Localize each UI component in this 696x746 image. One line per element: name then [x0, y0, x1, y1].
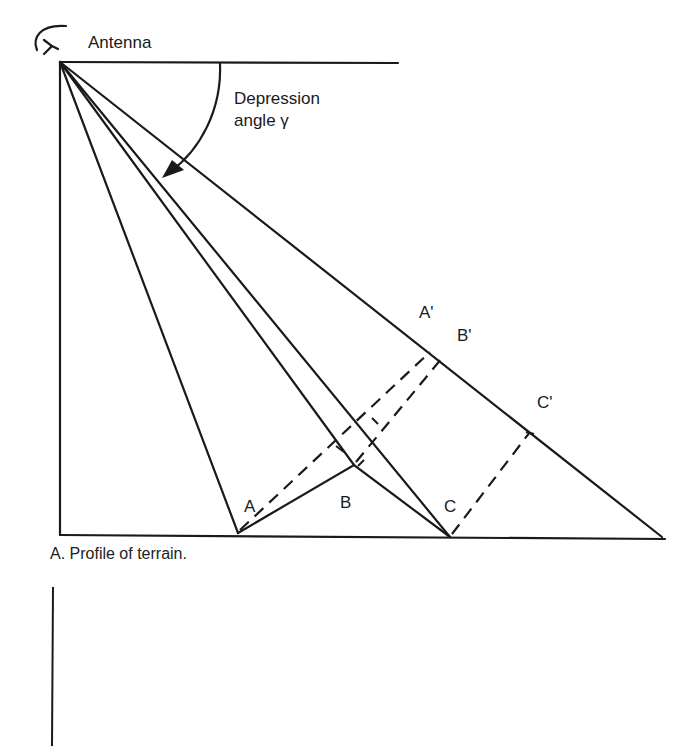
depression-label-line1: Depression: [234, 89, 320, 108]
tick-mark: [372, 418, 378, 424]
projection-C-to-C-prime: [452, 432, 530, 534]
antenna-icon-y: [44, 40, 58, 54]
projection-A-to-A-prime: [240, 352, 430, 530]
point-label-C: C: [444, 497, 456, 516]
projection-B-to-B-prime: [356, 358, 442, 462]
point-label-B-prime: B': [457, 326, 472, 345]
tick-mark: [358, 460, 364, 466]
horizontal-reference-line: [60, 62, 398, 63]
point-label-C-prime: C': [537, 393, 553, 412]
ground-line: [60, 535, 665, 539]
antenna-label: Antenna: [88, 33, 152, 52]
ray-to-B: [60, 62, 354, 465]
ray-to-C: [60, 62, 450, 537]
figure-caption: A. Profile of terrain.: [50, 545, 187, 563]
panel-b-vertical-line: [52, 587, 53, 746]
point-label-B: B: [340, 493, 351, 512]
point-label-A: A: [244, 497, 256, 516]
tick-mark: [526, 432, 534, 434]
terrain-profile-diagram: Antenna Depression angle γ A B C A' B' C…: [0, 0, 696, 746]
depression-label-line2: angle γ: [234, 111, 289, 130]
point-label-A-prime: A': [419, 303, 434, 322]
